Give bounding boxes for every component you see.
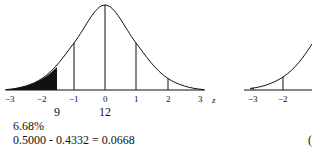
raw-value-label: 12 [99, 106, 111, 118]
tick-label-right: −2 [278, 93, 288, 105]
partial-label: ( [308, 134, 312, 146]
result-percent: 6.68% [13, 120, 44, 132]
right-normal-curve [244, 44, 312, 90]
shaded-tail-region [6, 67, 57, 90]
tick-label: −3 [5, 93, 15, 105]
tick-label: −1 [69, 93, 79, 105]
raw-value-label: 9 [54, 106, 60, 118]
tick-label: 3 [198, 93, 203, 105]
bell-curve-right [250, 44, 312, 89]
left-normal-curve [5, 5, 205, 90]
tick-label: 2 [166, 93, 171, 105]
computation-text: 0.5000 - 0.4332 = 0.0668 [13, 134, 135, 146]
tick-label: −2 [37, 93, 47, 105]
axis-label-z: z [212, 94, 216, 106]
normal-curve-diagram [0, 0, 312, 148]
tick-label: 0 [103, 93, 108, 105]
tick-label: 1 [134, 93, 139, 105]
tick-label-right: −3 [248, 93, 258, 105]
